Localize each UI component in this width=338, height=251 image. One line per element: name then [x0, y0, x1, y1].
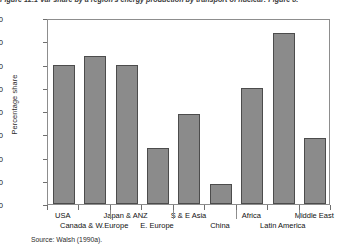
bar: [84, 56, 106, 204]
x-tick-mark: [78, 205, 79, 210]
source-note: Source: Walsh (1990a).: [31, 236, 102, 243]
bar: [273, 33, 295, 204]
y-tick-label: 15.0: [0, 131, 3, 140]
x-tick-mark: [267, 205, 268, 210]
y-tick-label: 20.0: [0, 108, 3, 117]
bar: [147, 148, 169, 204]
x-tick-mark: [47, 205, 48, 210]
x-tick-mark: [204, 205, 205, 210]
x-tick-label: Latin America: [260, 221, 305, 230]
bar: [241, 88, 263, 204]
label-group-separator: [299, 210, 300, 219]
x-tick-label: Canada & W.Europe: [60, 221, 128, 230]
bar: [304, 138, 326, 204]
x-tick-label: E. Europe: [140, 221, 173, 230]
y-tick-label: 5.0: [0, 177, 3, 186]
bar: [116, 65, 138, 205]
x-tick-label: Middle East: [295, 211, 334, 220]
bar: [53, 65, 75, 205]
bar: [178, 114, 200, 204]
x-tick-label: China: [210, 221, 230, 230]
y-tick-label: 0.0: [0, 201, 3, 210]
figure-caption: Figure 12.1 Var share by a region's ener…: [0, 0, 338, 7]
plot-area: [47, 19, 330, 205]
x-tick-mark: [330, 205, 331, 210]
bar-chart: Percentage share 0.05.010.015.020.025.03…: [0, 8, 338, 230]
y-axis-title: Percentage share: [10, 35, 19, 175]
y-tick-label: 35.0: [0, 38, 3, 47]
y-tick-label: 10.0: [0, 154, 3, 163]
y-tick-label: 30.0: [0, 61, 3, 70]
bar-series: [48, 20, 329, 204]
x-tick-label: S & E Asia: [171, 211, 206, 220]
label-group-separator: [110, 210, 111, 219]
x-tick-label: USA: [55, 211, 70, 220]
label-group-separator: [173, 210, 174, 219]
x-tick-label: Africa: [242, 211, 261, 220]
x-tick-mark: [141, 205, 142, 210]
y-tick-label: 25.0: [0, 84, 3, 93]
y-tick-label: 40.0: [0, 15, 3, 24]
bar: [210, 184, 232, 204]
label-group-separator: [236, 210, 237, 219]
